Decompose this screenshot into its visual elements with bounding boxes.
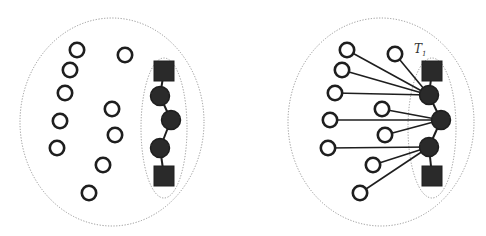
chain-label-subscript: 1 [422,50,426,58]
open-node [366,158,380,172]
edge [335,93,429,95]
filled-node [151,139,170,158]
terminal-square-node [422,166,442,186]
open-node [328,86,342,100]
open-node [321,141,335,155]
open-node [378,128,392,142]
open-node [58,86,72,100]
open-node [105,102,119,116]
edge [342,70,429,95]
filled-node [432,111,451,130]
filled-node [420,138,439,157]
open-node [375,102,389,116]
terminal-square-node [154,166,174,186]
open-node [63,63,77,77]
filled-node [151,87,170,106]
open-node [82,186,96,200]
open-node [118,48,132,62]
open-node [96,158,110,172]
open-node [108,128,122,142]
open-node [323,113,337,127]
open-node [335,63,349,77]
edge [328,147,429,148]
diagram-canvas: T1 [0,0,486,236]
open-node [353,186,367,200]
open-node [53,114,67,128]
filled-node [162,111,181,130]
terminal-square-node [422,61,442,81]
open-node [50,141,64,155]
panel-right: T1 [288,18,474,226]
panel-left [20,18,204,226]
open-node [388,47,402,61]
filled-node [420,86,439,105]
open-node [340,43,354,57]
open-node [70,43,84,57]
terminal-square-node [154,61,174,81]
